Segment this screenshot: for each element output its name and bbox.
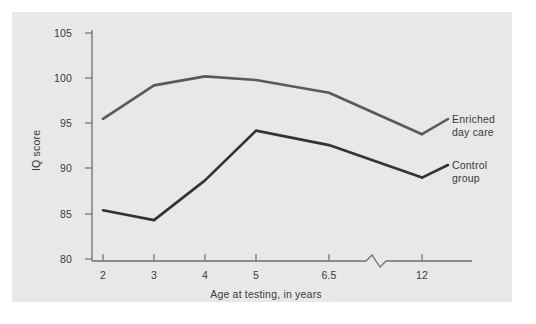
- x-tick-label-5: 5: [236, 269, 276, 281]
- y-tick-label-80: 80: [36, 253, 72, 265]
- series-label-enriched-line1: Enriched: [452, 113, 495, 126]
- series-label-control-line2: group: [452, 172, 487, 185]
- x-tick-label-6.5: 6.5: [309, 269, 349, 281]
- series-label-enriched-line2: day care: [452, 126, 495, 139]
- x-axis-title: Age at testing, in years: [156, 288, 376, 300]
- series-label-enriched-day-care: Enriched day care: [452, 113, 495, 138]
- leader-line-enriched-day-care: [422, 119, 448, 134]
- y-tick-label-105: 105: [36, 27, 72, 39]
- series-label-control-group: Control group: [452, 159, 487, 184]
- y-axis-title: IQ score: [30, 130, 42, 171]
- y-tick-label-95: 95: [36, 117, 72, 129]
- y-tick-label-85: 85: [36, 208, 72, 220]
- y-tick-label-100: 100: [36, 72, 72, 84]
- leader-line-control-group: [422, 165, 448, 178]
- x-tick-label-12: 12: [402, 269, 442, 281]
- x-tick-label-3: 3: [134, 269, 174, 281]
- x-tick-label-2: 2: [83, 269, 123, 281]
- axes: [85, 30, 472, 267]
- x-axis-break-zigzag: [366, 255, 386, 267]
- series-line-control-group: [103, 131, 422, 221]
- x-tick-label-4: 4: [185, 269, 225, 281]
- series-line-enriched-day-care: [103, 76, 422, 134]
- series-label-control-line1: Control: [452, 159, 487, 172]
